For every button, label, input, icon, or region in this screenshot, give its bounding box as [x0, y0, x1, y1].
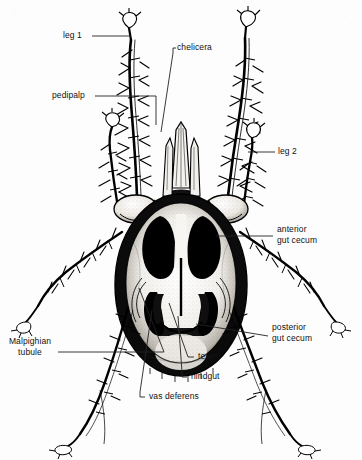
label-anterior-gut-cecum: anterior gut cecum	[277, 224, 317, 245]
idiosoma-body	[115, 194, 247, 376]
label-vas-deferens: vas deferens	[149, 391, 199, 402]
label-hindgut: hindgut	[191, 371, 220, 382]
label-testis: testis	[198, 351, 218, 362]
label-leg-2: leg 2	[278, 146, 297, 157]
label-posterior-gut-cecum: posterior gut cecum	[272, 322, 312, 343]
label-leg-1: leg 1	[63, 30, 82, 41]
label-chelicera: chelicera	[177, 42, 212, 53]
label-pedipalp: pedipalp	[52, 90, 85, 101]
label-malpighian-tubule: Malpighian tubule	[2, 336, 58, 357]
